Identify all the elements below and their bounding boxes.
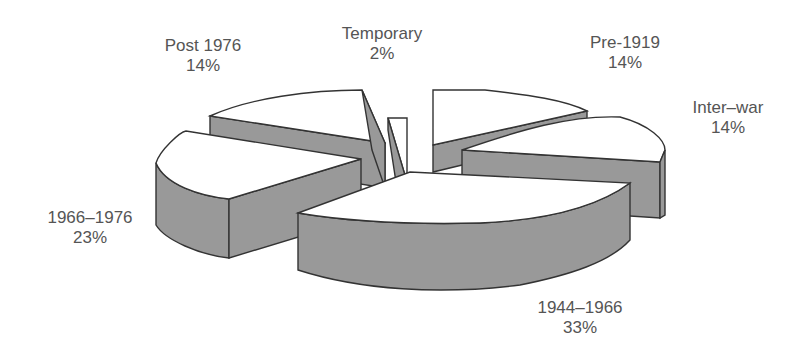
label-temporary-name: Temporary xyxy=(322,24,442,44)
label-1966-1976-name: 1966–1976 xyxy=(25,208,155,228)
label-pre-1919-name: Pre-1919 xyxy=(565,33,685,53)
label-inter-war-value: 14% xyxy=(663,118,793,138)
label-post-1976-name: Post 1976 xyxy=(148,36,258,56)
label-inter-war: Inter–war 14% xyxy=(663,98,793,138)
label-1966-1976: 1966–1976 23% xyxy=(25,208,155,248)
label-temporary-value: 2% xyxy=(322,44,442,64)
label-1944-1966-value: 33% xyxy=(510,318,650,338)
slice-temporary xyxy=(388,118,407,182)
label-post-1976-value: 14% xyxy=(148,56,258,76)
label-post-1976: Post 1976 14% xyxy=(148,36,258,76)
label-temporary: Temporary 2% xyxy=(322,24,442,64)
label-pre-1919-value: 14% xyxy=(565,53,685,73)
label-inter-war-name: Inter–war xyxy=(663,98,793,118)
label-1944-1966: 1944–1966 33% xyxy=(510,298,650,338)
label-1966-1976-value: 23% xyxy=(25,228,155,248)
label-pre-1919: Pre-1919 14% xyxy=(565,33,685,73)
label-1944-1966-name: 1944–1966 xyxy=(510,298,650,318)
